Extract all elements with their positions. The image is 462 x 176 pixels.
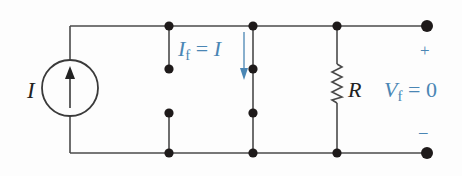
node-col1-upper — [164, 64, 173, 73]
current-source-icon — [42, 60, 98, 116]
resistor-icon — [332, 64, 342, 103]
terminal-negative — [421, 147, 433, 159]
fault-voltage-label: Vf = 0 — [384, 77, 437, 104]
resistor-label: R — [347, 77, 362, 102]
fault-current-label: If = I — [177, 36, 223, 63]
circuit-svg: I If = I R Vf = 0 + – — [0, 0, 462, 176]
minus-sign: – — [418, 122, 428, 141]
fault-current-arrow-icon — [240, 32, 248, 80]
circuit-diagram: I If = I R Vf = 0 + – — [0, 0, 462, 176]
node-col1-lower — [164, 108, 173, 117]
terminal-positive — [421, 20, 433, 32]
wires — [70, 26, 427, 153]
node-col1-bottom — [164, 148, 173, 157]
node-col2-upper — [248, 64, 257, 73]
node-col1-top — [164, 21, 173, 30]
node-col2-bottom — [248, 148, 257, 157]
node-col2-lower — [248, 108, 257, 117]
source-label: I — [26, 78, 36, 103]
plus-sign: + — [420, 41, 430, 60]
node-resistor-bottom — [332, 148, 341, 157]
node-col2-top — [248, 21, 257, 30]
node-resistor-top — [332, 21, 341, 30]
